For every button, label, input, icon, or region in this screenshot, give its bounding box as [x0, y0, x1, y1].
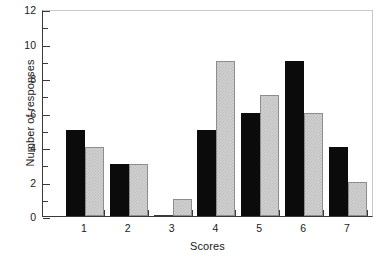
bar-gray-3: [173, 199, 192, 216]
y-tick-label: 6: [6, 108, 36, 120]
y-tick-minor: [43, 63, 48, 64]
bar-black-7: [329, 147, 348, 216]
bar-gray-5: [260, 95, 279, 216]
x-tick-label: 6: [288, 222, 318, 234]
x-tick-label: 1: [69, 222, 99, 234]
bar-gray-7: [348, 182, 367, 217]
y-tick-major: [43, 218, 50, 219]
x-tick: [367, 210, 368, 216]
bar-black-5: [241, 113, 260, 217]
x-tick-label: 2: [113, 222, 143, 234]
bar-black-1: [66, 130, 85, 216]
y-tick-major: [43, 46, 50, 47]
x-tick: [148, 210, 149, 216]
y-tick-label: 10: [6, 39, 36, 51]
x-tick-label: 4: [200, 222, 230, 234]
bar-black-3: [154, 215, 173, 217]
bar-gray-2: [129, 164, 148, 216]
y-tick-major: [43, 80, 50, 81]
x-tick: [104, 210, 105, 216]
bar-gray-1: [85, 147, 104, 216]
y-tick-major: [43, 184, 50, 185]
y-tick-label: 0: [6, 211, 36, 223]
y-tick-minor: [43, 132, 48, 133]
bar-black-2: [110, 164, 129, 216]
y-tick-label: 4: [6, 142, 36, 154]
bar-black-6: [285, 61, 304, 216]
y-tick-major: [43, 149, 50, 150]
x-axis-title: Scores: [42, 240, 373, 252]
y-tick-label: 8: [6, 73, 36, 85]
y-tick-minor: [43, 166, 48, 167]
x-tick: [192, 210, 193, 216]
bar-gray-6: [304, 113, 323, 217]
bar-chart: Number of responses 024681012 1234567 Sc…: [0, 0, 383, 268]
x-tick: [235, 210, 236, 216]
y-tick-label: 12: [6, 4, 36, 16]
x-tick-label: 3: [157, 222, 187, 234]
plot-area: [42, 10, 373, 217]
y-tick-label: 2: [6, 177, 36, 189]
x-tick: [323, 210, 324, 216]
y-tick-minor: [43, 28, 48, 29]
bar-gray-4: [216, 61, 235, 216]
y-tick-minor: [43, 97, 48, 98]
bar-black-4: [197, 130, 216, 216]
y-tick-major: [43, 11, 50, 12]
x-tick: [279, 210, 280, 216]
x-tick-label: 7: [332, 222, 362, 234]
x-tick-label: 5: [244, 222, 274, 234]
y-tick-minor: [43, 201, 48, 202]
y-tick-major: [43, 115, 50, 116]
